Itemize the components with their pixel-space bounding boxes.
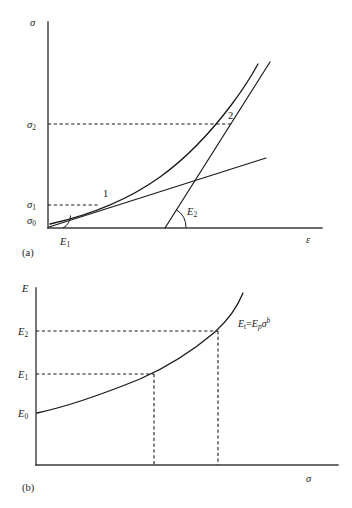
panel-a-modulus-e2-label: E2 <box>186 206 197 219</box>
panel-b-tick-e1: E1 <box>17 369 28 382</box>
panel-a-stress-strain: σ ε σ2 σ1 σ0 1 2 E1 E2 (a) <box>0 0 352 260</box>
panel-b-tick-e0: E0 <box>17 408 28 421</box>
panel-a-tangent-line-e2 <box>165 62 270 228</box>
panel-a-angle-arc-e2 <box>176 210 186 229</box>
panel-b-y-axis-label: E <box>21 283 29 294</box>
panel-b-tangent-modulus-curve <box>37 293 243 413</box>
panel-a-stress-strain-curve <box>50 64 258 224</box>
panel-b-plot-content: E σ E2 E1 E0 Et=Epσb (b) <box>0 260 352 508</box>
panel-a-point-2-label: 2 <box>228 110 233 121</box>
panel-a-point-1-label: 1 <box>103 188 108 199</box>
panel-a-modulus-e1-label: E1 <box>59 236 70 249</box>
panel-b-equation-annotation: Et=Epσb <box>237 316 271 331</box>
panel-a-tick-sigma2: σ2 <box>27 119 36 132</box>
panel-b-x-axis-label: σ <box>306 473 312 484</box>
panel-b-tangent-modulus: E σ E2 E1 E0 Et=Epσb (b) <box>0 260 352 508</box>
panel-a-plot: σ ε σ2 σ1 σ0 1 2 E1 E2 (a) <box>0 0 352 260</box>
panel-b-label: (b) <box>22 482 35 494</box>
panel-a-y-axis-label: σ <box>30 17 36 28</box>
panel-a-x-axis-label: ε <box>306 234 311 245</box>
panel-a-tick-sigma1: σ1 <box>27 199 36 212</box>
panel-a-tangent-line-e1 <box>49 158 266 227</box>
panel-a-tick-sigma0: σ0 <box>27 215 36 228</box>
panel-a-label: (a) <box>22 247 34 259</box>
panel-b-tick-e2: E2 <box>17 326 28 339</box>
